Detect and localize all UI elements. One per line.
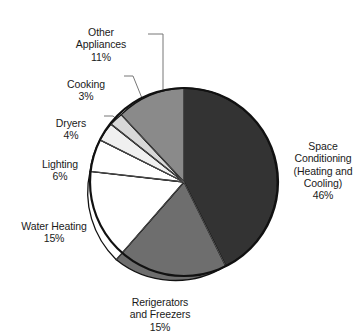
slice-label-water-heating: Water Heating 15% xyxy=(8,208,100,257)
slice-label-refrigerators-text: Rerigerators and Freezers xyxy=(130,296,191,320)
slice-label-space-conditioning: Space Conditioning (Heating and Cooling)… xyxy=(288,128,358,213)
slice-label-refrigerators: Rerigerators and Freezers 15% xyxy=(92,284,228,334)
slice-label-other-appliances-text: Other Appliances xyxy=(76,26,126,50)
slice-label-cooking-percent: 3% xyxy=(50,90,122,102)
slice-label-space-conditioning-percent: 46% xyxy=(288,189,358,201)
slice-label-water-heating-percent: 15% xyxy=(8,232,100,244)
slice-label-refrigerators-percent: 15% xyxy=(92,321,228,333)
slice-label-dryers-percent: 4% xyxy=(40,129,102,141)
slice-label-space-conditioning-text: Space Conditioning (Heating and Cooling) xyxy=(294,140,353,189)
slice-label-water-heating-text: Water Heating xyxy=(21,220,86,232)
slice-label-lighting-percent: 6% xyxy=(24,170,96,182)
slice-label-cooking-text: Cooking xyxy=(67,78,105,90)
slice-label-dryers-text: Dryers xyxy=(56,117,86,129)
slice-label-lighting: Lighting 6% xyxy=(24,146,96,195)
slice-label-other-appliances-percent: 11% xyxy=(58,51,144,63)
slice-label-lighting-text: Lighting xyxy=(42,158,78,170)
pie-chart-figure: Space Conditioning (Heating and Cooling)… xyxy=(0,0,360,334)
leader-line-other-appliances xyxy=(148,34,163,90)
